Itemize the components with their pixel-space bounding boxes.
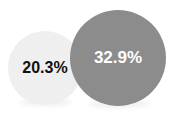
- bubble-32-9: 32.9%: [70, 10, 166, 106]
- bubble-label: 32.9%: [94, 48, 142, 68]
- bubble-label: 20.3%: [22, 59, 67, 77]
